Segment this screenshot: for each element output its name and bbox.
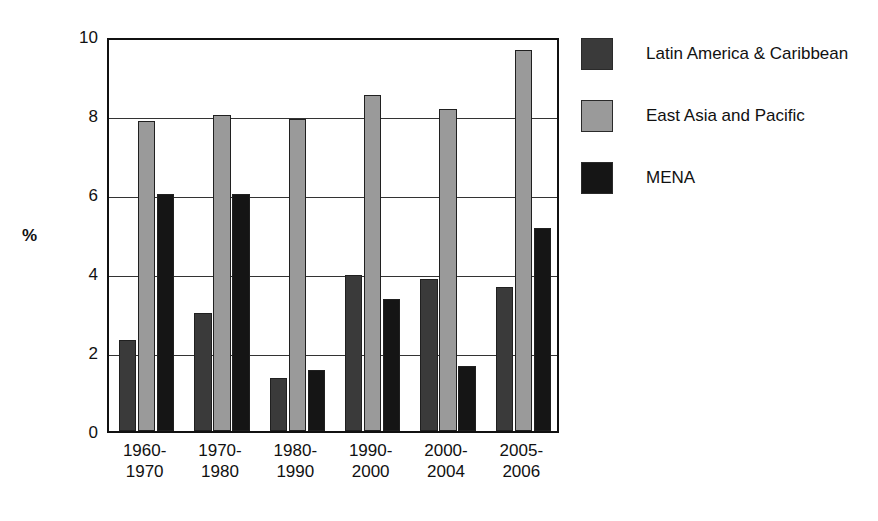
legend-label: MENA: [646, 168, 695, 188]
bar-chart-figure: % 1086420 1960-19701970-19801980-1990199…: [0, 0, 878, 521]
bars-layer: [109, 40, 557, 431]
x-tick-label-line: 1990-: [328, 441, 414, 462]
bar: [345, 275, 363, 431]
x-tick-label-1970-1980: 1970-1980: [177, 441, 263, 482]
x-tick-label-2000-2004: 2000-2004: [403, 441, 489, 482]
x-tick-label-1990-2000: 1990-2000: [328, 441, 414, 482]
x-tick-label-line: 2005-: [478, 441, 564, 462]
x-tick-label-2005-2006: 2005-2006: [478, 441, 564, 482]
x-tick-label-line: 2004: [403, 462, 489, 483]
plot-area: [107, 38, 559, 433]
legend-swatch-latin-america: [581, 38, 613, 70]
y-tick-label-0: 0: [62, 424, 98, 441]
legend-item[interactable]: Latin America & Caribbean: [581, 38, 848, 70]
x-tick-label-line: 2006: [478, 462, 564, 483]
x-tick-label-line: 1960-: [102, 441, 188, 462]
x-tick-label-1960-1970: 1960-1970: [102, 441, 188, 482]
x-tick-label-line: 1990: [252, 462, 338, 483]
bar: [194, 313, 212, 432]
bar: [420, 279, 438, 431]
bar: [270, 378, 288, 431]
legend-swatch-east-asia: [581, 100, 613, 132]
y-axis-title: %: [22, 226, 37, 246]
bar: [213, 115, 231, 431]
x-tick-label-line: 1980: [177, 462, 263, 483]
bar: [119, 340, 137, 431]
x-tick-label-line: 2000: [328, 462, 414, 483]
bar: [138, 121, 156, 431]
bar: [308, 370, 326, 431]
legend-label: East Asia and Pacific: [646, 106, 805, 126]
bar: [439, 109, 457, 431]
x-tick-label-line: 1970-: [177, 441, 263, 462]
bar: [534, 228, 552, 431]
y-tick-label-10: 10: [62, 29, 98, 46]
legend-label: Latin America & Caribbean: [646, 44, 848, 64]
bar: [515, 50, 533, 431]
bar: [157, 194, 175, 431]
bar: [232, 194, 250, 431]
x-tick-label-line: 2000-: [403, 441, 489, 462]
legend-swatch-mena: [581, 162, 613, 194]
bar: [364, 95, 382, 431]
legend-item[interactable]: MENA: [581, 162, 695, 194]
bar: [289, 119, 307, 431]
y-tick-label-2: 2: [62, 345, 98, 362]
x-tick-label-line: 1970: [102, 462, 188, 483]
y-tick-label-6: 6: [62, 187, 98, 204]
x-tick-label-line: 1980-: [252, 441, 338, 462]
y-tick-label-8: 8: [62, 108, 98, 125]
legend-item[interactable]: East Asia and Pacific: [581, 100, 805, 132]
bar: [383, 299, 401, 431]
bar: [496, 287, 514, 431]
y-tick-label-4: 4: [62, 266, 98, 283]
bar: [458, 366, 476, 431]
x-tick-label-1980-1990: 1980-1990: [252, 441, 338, 482]
